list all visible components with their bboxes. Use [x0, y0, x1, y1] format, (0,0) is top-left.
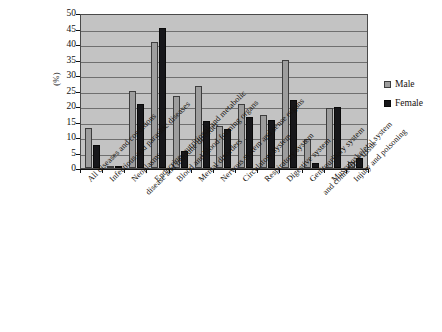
bar-group — [344, 15, 366, 168]
y-tick-mark — [76, 138, 80, 139]
y-tick-label: 5 — [54, 149, 76, 159]
x-tick-mark — [302, 169, 303, 173]
bar-group — [191, 15, 213, 168]
bar-group — [126, 15, 148, 168]
y-tick-label: 25 — [54, 87, 76, 97]
x-tick-mark — [169, 169, 170, 173]
y-tick-label: 40 — [54, 40, 76, 50]
bar-female — [224, 129, 231, 168]
bar-male — [326, 108, 333, 168]
x-tick-mark — [346, 169, 347, 173]
bar-group — [148, 15, 170, 168]
bar-group — [235, 15, 257, 168]
y-tick-mark — [76, 30, 80, 31]
figure-caption — [6, 322, 436, 332]
legend-swatch-male — [384, 81, 391, 88]
bar-male — [216, 126, 223, 168]
legend-label: Female — [395, 98, 423, 108]
y-tick-mark — [76, 61, 80, 62]
x-tick-mark — [279, 169, 280, 173]
y-tick-mark — [76, 92, 80, 93]
y-tick-mark — [76, 107, 80, 108]
bar-female — [115, 166, 122, 168]
bar-group — [300, 15, 322, 168]
bar-group — [104, 15, 126, 168]
x-tick-mark — [191, 169, 192, 173]
bar-female — [290, 100, 297, 168]
y-tick-mark — [76, 169, 80, 170]
y-tick-mark — [76, 45, 80, 46]
bar-female — [268, 120, 275, 168]
bar-male — [348, 162, 355, 168]
plot-box — [80, 14, 368, 169]
chart-plot-area: (%) 05101520253035404550 — [0, 0, 442, 332]
x-tick-mark — [368, 169, 369, 173]
bar-female — [159, 28, 166, 168]
x-tick-mark — [235, 169, 236, 173]
bar-female — [356, 158, 363, 168]
bar-group — [82, 15, 104, 168]
x-tick-mark — [324, 169, 325, 173]
x-tick-mark — [102, 169, 103, 173]
chart-figure: (%) 05101520253035404550 All diseases an… — [0, 0, 442, 332]
bar-group — [279, 15, 301, 168]
legend-item-male[interactable]: Male — [384, 79, 423, 89]
y-tick-mark — [76, 123, 80, 124]
bar-female — [93, 145, 100, 168]
bar-male — [107, 166, 114, 168]
legend-swatch-female — [384, 100, 391, 107]
y-tick-label: 10 — [54, 133, 76, 143]
x-tick-mark — [124, 169, 125, 173]
bar-female — [312, 163, 319, 168]
y-tick-label: 45 — [54, 25, 76, 35]
bar-female — [137, 104, 144, 168]
y-axis-tick-labels: 05101520253035404550 — [50, 0, 76, 332]
bar-female — [203, 121, 210, 168]
y-tick-label: 15 — [54, 118, 76, 128]
bar-male — [129, 91, 136, 168]
y-tick-label: 30 — [54, 71, 76, 81]
chart-legend: MaleFemale — [384, 79, 423, 117]
x-tick-mark — [146, 169, 147, 173]
bar-group — [213, 15, 235, 168]
bar-female — [246, 117, 253, 168]
bar-male — [238, 104, 245, 168]
bar-female — [334, 107, 341, 168]
bar-male — [282, 60, 289, 168]
bar-male — [85, 128, 92, 168]
bar-groups — [81, 15, 367, 168]
y-tick-label: 35 — [54, 56, 76, 66]
bar-group — [169, 15, 191, 168]
bar-male — [195, 86, 202, 168]
y-tick-mark — [76, 76, 80, 77]
x-tick-mark — [80, 169, 81, 173]
legend-item-female[interactable]: Female — [384, 98, 423, 108]
y-tick-mark — [76, 154, 80, 155]
y-tick-label: 50 — [54, 9, 76, 19]
y-tick-label: 20 — [54, 102, 76, 112]
bar-group — [322, 15, 344, 168]
bar-male — [260, 115, 267, 168]
y-tick-mark — [76, 14, 80, 15]
y-tick-label: 0 — [54, 164, 76, 174]
bar-male — [304, 139, 311, 168]
x-tick-mark — [213, 169, 214, 173]
bar-male — [173, 96, 180, 168]
bar-male — [151, 42, 158, 168]
bar-group — [257, 15, 279, 168]
x-axis-ticks — [80, 169, 368, 174]
legend-label: Male — [395, 79, 415, 89]
x-tick-mark — [257, 169, 258, 173]
bar-female — [181, 151, 188, 168]
